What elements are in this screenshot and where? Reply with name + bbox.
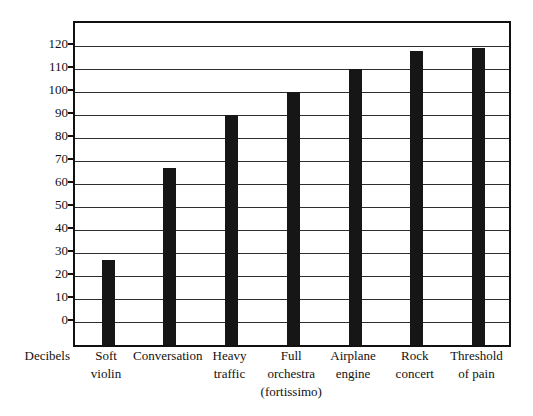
bar-6	[472, 48, 485, 345]
bar-5	[410, 51, 423, 345]
y-axis-tick	[68, 66, 73, 68]
y-axis-tick	[68, 227, 73, 229]
y-tick-label: 100	[22, 82, 68, 97]
bar-4	[349, 69, 362, 345]
y-axis-tick	[68, 158, 73, 160]
y-axis-tick	[68, 319, 73, 321]
y-tick-label: 0	[22, 312, 68, 327]
y-tick-label: 20	[22, 266, 68, 281]
y-axis-tick	[68, 204, 73, 206]
y-tick-label: 10	[22, 289, 68, 304]
y-axis-tick	[68, 296, 73, 298]
decibel-bar-chart: Decibels 0102030405060708090100110120Sof…	[0, 0, 533, 416]
bar-1	[163, 168, 176, 345]
y-tick-label: 30	[22, 243, 68, 258]
y-tick-label: 70	[22, 151, 68, 166]
category-label: Threshold of pain	[431, 347, 523, 383]
y-tick-label: 120	[22, 36, 68, 51]
y-tick-label: 80	[22, 128, 68, 143]
y-axis-tick	[68, 181, 73, 183]
y-tick-label: 110	[22, 59, 68, 74]
gridline	[75, 69, 509, 70]
y-tick-label: 90	[22, 105, 68, 120]
bar-3	[287, 92, 300, 345]
y-axis-tick	[68, 112, 73, 114]
y-tick-label: 50	[22, 197, 68, 212]
bar-0	[102, 260, 115, 345]
y-tick-label: 60	[22, 174, 68, 189]
y-axis-tick	[68, 89, 73, 91]
y-axis-tick	[68, 250, 73, 252]
y-axis-tick	[68, 273, 73, 275]
y-axis-tick	[68, 43, 73, 45]
gridline	[75, 46, 509, 47]
bar-2	[225, 115, 238, 345]
plot-area	[73, 21, 511, 347]
y-axis-tick	[68, 135, 73, 137]
y-tick-label: 40	[22, 220, 68, 235]
